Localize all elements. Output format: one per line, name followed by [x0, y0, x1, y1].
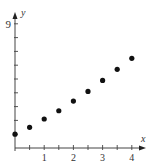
- x-tick-label: 1: [42, 152, 47, 163]
- data-point: [56, 108, 61, 113]
- data-point: [100, 78, 105, 83]
- x-axis-label: x: [140, 133, 146, 144]
- y-axis-label: y: [20, 7, 26, 18]
- data-point: [71, 98, 76, 103]
- y-axis-arrow-icon: [13, 12, 18, 19]
- x-tick-label: 2: [71, 152, 76, 163]
- x-tick-labels: 1234: [42, 152, 135, 163]
- scatter-chart: x y 1234 9: [0, 0, 154, 166]
- x-tick-label: 4: [129, 152, 134, 163]
- data-point: [12, 132, 17, 137]
- y-tick-label: 9: [6, 18, 12, 30]
- x-axis-arrow-icon: [139, 146, 146, 151]
- data-point: [27, 125, 32, 130]
- data-point: [42, 116, 47, 121]
- x-tick-label: 3: [100, 152, 105, 163]
- data-points: [12, 56, 134, 137]
- data-point: [129, 56, 134, 61]
- data-point: [115, 67, 120, 72]
- data-point: [85, 89, 90, 94]
- y-tick-labels: 9: [6, 18, 12, 30]
